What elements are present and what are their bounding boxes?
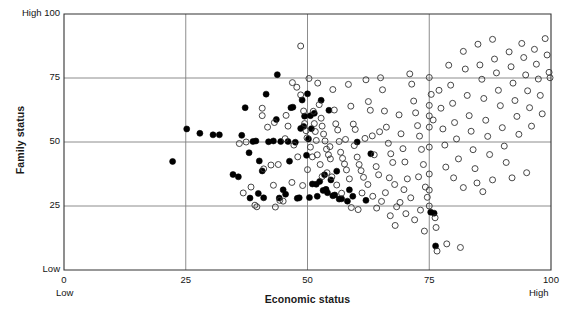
data-point (499, 125, 505, 131)
data-point (464, 92, 470, 98)
data-point (290, 104, 296, 110)
data-point (411, 98, 417, 104)
data-point (404, 176, 410, 182)
data-point (462, 66, 468, 72)
data-point (253, 138, 259, 144)
data-point (240, 190, 246, 196)
data-point (286, 158, 292, 164)
data-point (324, 190, 330, 196)
data-point (317, 162, 323, 168)
data-point (460, 185, 466, 191)
data-point (392, 222, 398, 228)
data-point (270, 138, 276, 144)
data-point (319, 123, 325, 129)
data-point (348, 103, 354, 109)
data-point (527, 105, 533, 111)
data-point (342, 136, 348, 142)
data-point (533, 61, 539, 67)
data-point (506, 49, 512, 55)
data-point (210, 132, 216, 138)
data-point (413, 110, 419, 116)
data-point (475, 41, 481, 47)
data-point (295, 154, 301, 160)
data-point (339, 190, 345, 196)
series-open (236, 36, 553, 254)
data-point (321, 131, 327, 137)
data-point (420, 162, 426, 168)
data-point (390, 159, 396, 165)
data-point (539, 111, 545, 117)
data-point (294, 84, 300, 90)
y-tick-label-0: Low (4, 263, 60, 274)
data-point (512, 98, 518, 104)
data-point (377, 129, 383, 135)
data-point (305, 91, 311, 97)
data-point (283, 191, 289, 197)
data-point (479, 76, 485, 82)
data-point (443, 164, 449, 170)
data-point (452, 120, 458, 126)
data-point (289, 179, 295, 185)
data-point (342, 161, 348, 167)
data-point (460, 48, 466, 54)
data-point (544, 52, 550, 58)
data-point (300, 183, 306, 189)
data-point (359, 190, 365, 196)
data-point (365, 99, 371, 105)
data-point (492, 56, 498, 62)
data-point (514, 113, 520, 119)
x-tick-label-0: 0 (44, 274, 84, 285)
data-point (263, 91, 269, 97)
data-point (285, 123, 291, 129)
data-point (307, 144, 313, 150)
data-point (438, 105, 444, 111)
data-point (322, 138, 328, 144)
data-point (261, 195, 267, 201)
data-point (444, 241, 450, 247)
data-point (516, 131, 522, 137)
data-point (537, 92, 543, 98)
data-point (474, 180, 480, 186)
data-point (409, 81, 415, 87)
data-point (265, 124, 271, 130)
data-point (314, 193, 320, 199)
data-point (523, 72, 529, 78)
data-point (346, 176, 352, 182)
data-point (470, 147, 476, 153)
data-point (417, 133, 423, 139)
data-point (246, 150, 252, 156)
data-point (529, 123, 535, 129)
y-tick-label-50: 50 (4, 135, 60, 146)
data-point (497, 103, 503, 109)
data-point (397, 199, 403, 205)
data-point (385, 140, 391, 146)
data-point (275, 162, 281, 168)
data-point (361, 174, 367, 180)
data-point (433, 225, 439, 231)
x-tick-label-75: 75 (409, 274, 449, 285)
data-point (216, 132, 222, 138)
data-point (239, 132, 245, 138)
data-point (396, 112, 402, 118)
data-point (451, 175, 457, 181)
data-point (401, 187, 407, 193)
data-point (363, 197, 369, 203)
data-point (490, 177, 496, 183)
data-point (345, 81, 351, 87)
data-point (367, 107, 373, 113)
data-point (440, 126, 446, 132)
data-point (454, 136, 460, 142)
data-point (421, 228, 427, 234)
data-point (508, 64, 514, 70)
data-point (242, 105, 248, 111)
data-point (430, 117, 436, 123)
data-point (531, 46, 537, 52)
data-point (468, 128, 474, 134)
data-point (379, 198, 385, 204)
data-point (334, 168, 340, 174)
data-point (450, 100, 456, 106)
data-point (358, 168, 364, 174)
data-point (525, 88, 531, 94)
data-point (274, 72, 280, 78)
data-point (333, 121, 339, 127)
